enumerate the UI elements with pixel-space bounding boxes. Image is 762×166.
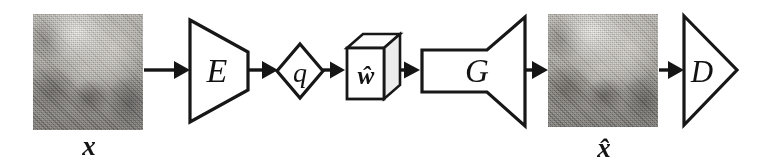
arrow-encoder-to-quantizer: [248, 61, 278, 79]
reconstructed-image-caption: x̂: [596, 133, 611, 163]
discriminator-node: D: [684, 16, 737, 125]
quantizer-node: q: [277, 44, 323, 98]
input-image-caption: x: [81, 131, 96, 161]
latent-code-node: ŵ: [347, 34, 400, 99]
encoder-node: E: [190, 20, 248, 122]
architecture-diagram: E q ŵ G: [0, 0, 762, 166]
arrow-input-to-encoder: [144, 61, 190, 79]
generator-label: G: [465, 53, 489, 89]
arrow-output-to-discriminator: [659, 61, 684, 79]
generator-node: G: [422, 17, 525, 126]
quantizer-label: q: [293, 57, 307, 88]
discriminator-label: D: [690, 54, 713, 89]
latent-code-label: ŵ: [357, 62, 375, 89]
arrow-latent-to-generator: [400, 62, 420, 79]
arrow-generator-to-output: [525, 61, 548, 79]
arrow-quantizer-to-latent: [323, 62, 345, 79]
encoder-label: E: [206, 52, 228, 89]
